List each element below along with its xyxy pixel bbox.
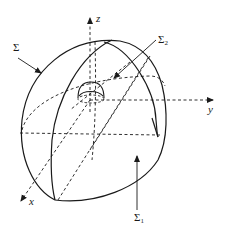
diagonal-dashed-1 xyxy=(58,58,148,200)
sigma-label: Σ xyxy=(13,42,19,53)
sigma-symbol: Σ xyxy=(13,41,19,53)
surface-diagram: z y x Σ Σ2 Σ1 xyxy=(0,0,225,235)
x-axis-label: x xyxy=(29,196,34,207)
z-axis-label: z xyxy=(96,13,100,24)
sigma-2-subscript: 2 xyxy=(164,39,168,47)
front-meridian-arc xyxy=(51,40,112,200)
dome-base-dashed xyxy=(78,95,104,103)
sigma-1-subscript: 1 xyxy=(140,217,144,225)
base-plane-line xyxy=(20,133,160,135)
sigma-1-label: Σ1 xyxy=(134,212,144,225)
y-axis-label: y xyxy=(208,104,213,115)
equator-back-dashed xyxy=(22,76,165,130)
x-axis xyxy=(21,100,90,201)
sigma-pointer xyxy=(18,58,41,73)
bottom-boundary xyxy=(55,41,166,201)
sigma-2-label: Σ2 xyxy=(158,34,168,47)
dome-top-arc xyxy=(78,82,104,98)
outer-boundary xyxy=(21,41,120,200)
axes xyxy=(21,18,213,201)
